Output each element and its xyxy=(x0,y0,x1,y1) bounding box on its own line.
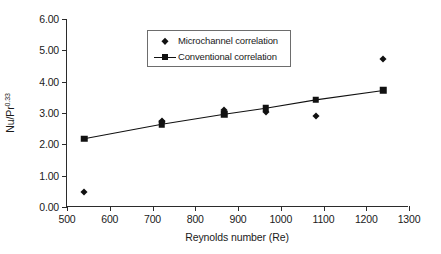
y-axis-tick-label: 3.00 xyxy=(39,107,59,119)
x-axis-tick xyxy=(281,206,282,211)
legend-label: Microchannel correlation xyxy=(178,35,278,46)
x-axis-tick-label: 800 xyxy=(187,213,204,225)
x-axis-tick-label: 1300 xyxy=(398,213,421,225)
legend-label: Conventional correlation xyxy=(178,51,277,62)
x-axis-tick xyxy=(153,206,154,211)
x-axis-tick-label: 500 xyxy=(59,213,76,225)
data-point-marker xyxy=(81,188,88,195)
y-axis-tick xyxy=(62,176,67,177)
series-line-1 xyxy=(84,90,383,138)
y-axis-tick xyxy=(62,144,67,145)
x-axis-tick xyxy=(324,206,325,211)
y-axis-title-base: Nu/Pr xyxy=(4,106,16,132)
y-axis-tick-label: 1.00 xyxy=(39,170,59,182)
legend-item-conventional[interactable]: Conventional correlation xyxy=(152,50,284,63)
x-axis-tick-label: 600 xyxy=(101,213,118,225)
data-point-marker xyxy=(312,113,319,120)
data-point-marker xyxy=(81,135,88,142)
x-axis-title: Reynolds number (Re) xyxy=(66,231,408,243)
chart-figure: Nu/Pr0.33 0.001.002.003.004.005.006.0050… xyxy=(0,0,441,254)
x-axis-tick xyxy=(110,206,111,211)
y-axis-tick xyxy=(62,50,67,51)
data-point-marker xyxy=(159,121,166,128)
y-axis-tick xyxy=(62,113,67,114)
data-point-marker xyxy=(380,55,387,62)
data-point-marker xyxy=(313,97,320,104)
chart-legend: Microchannel correlation Conventional co… xyxy=(147,30,291,67)
y-axis-tick xyxy=(62,82,67,83)
y-axis-tick-label: 0.00 xyxy=(39,201,59,213)
x-axis-tick-label: 1200 xyxy=(355,213,378,225)
y-axis-tick-label: 6.00 xyxy=(39,13,59,25)
y-axis-tick xyxy=(62,19,67,20)
x-axis-tick-label: 700 xyxy=(144,213,161,225)
x-axis-tick xyxy=(238,206,239,211)
x-axis-tick xyxy=(409,206,410,211)
x-axis-tick xyxy=(195,206,196,211)
y-axis-tick-label: 5.00 xyxy=(39,44,59,56)
y-axis-tick-label: 4.00 xyxy=(39,76,59,88)
x-axis-tick xyxy=(67,206,68,211)
data-point-marker xyxy=(221,111,228,118)
square-line-marker-icon xyxy=(152,51,178,63)
y-axis-title: Nu/Pr0.33 xyxy=(4,93,17,133)
x-axis-tick-label: 900 xyxy=(230,213,247,225)
x-axis-tick xyxy=(366,206,367,211)
diamond-marker-icon xyxy=(152,35,178,47)
data-point-marker xyxy=(263,105,270,112)
x-axis-tick-label: 1000 xyxy=(269,213,292,225)
data-point-marker xyxy=(380,87,387,94)
y-axis-tick-label: 2.00 xyxy=(39,138,59,150)
y-axis-title-exponent: 0.33 xyxy=(4,93,11,106)
legend-item-microchannel[interactable]: Microchannel correlation xyxy=(152,34,284,47)
x-axis-tick-label: 1100 xyxy=(313,213,335,225)
